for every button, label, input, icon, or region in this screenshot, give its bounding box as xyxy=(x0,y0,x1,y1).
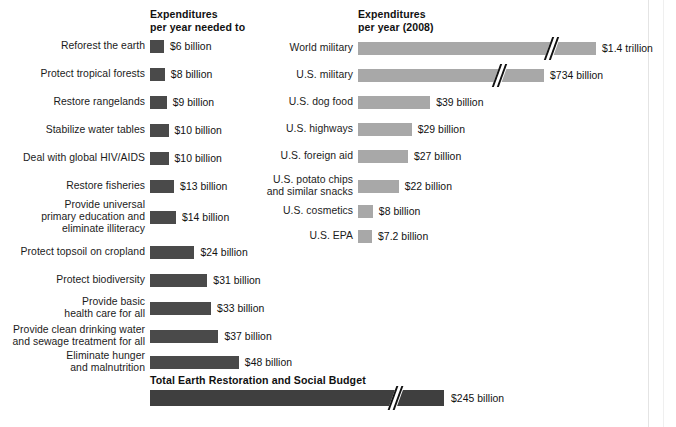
bar-label: Protect biodiversity xyxy=(56,274,145,286)
bar xyxy=(150,246,194,259)
bar-label: U.S. highways xyxy=(286,123,353,135)
bar xyxy=(150,211,176,224)
page-edge-line-outer xyxy=(663,0,664,427)
total-budget-bar xyxy=(150,390,444,406)
bar-label: U.S. foreign aid xyxy=(281,150,353,162)
bar-value-label: $37 billion xyxy=(224,330,271,343)
bar-value-label: $10 billion xyxy=(175,124,222,137)
bar xyxy=(150,68,165,81)
bar-label: Restore fisheries xyxy=(66,180,145,192)
bar xyxy=(150,356,239,369)
bar-value-label: $31 billion xyxy=(213,274,260,287)
bar-value-label: $48 billion xyxy=(245,356,292,369)
total-budget-value-label: $245 billion xyxy=(451,392,504,405)
bar xyxy=(150,330,218,343)
bar xyxy=(150,152,169,165)
bar-label: Provide universal primary education and … xyxy=(41,199,145,234)
bar xyxy=(358,123,412,136)
bar-label: Eliminate hunger and malnutrition xyxy=(66,350,145,373)
bar-label: Provide basic health care for all xyxy=(64,296,145,319)
page-edge-line xyxy=(648,0,649,427)
bar-value-label: $29 billion xyxy=(418,123,465,136)
bar-label: U.S. potato chips and similar snacks xyxy=(267,174,353,197)
bar-value-label: $9 billion xyxy=(173,96,215,109)
bar xyxy=(150,180,174,193)
bar-value-label: $8 billion xyxy=(171,68,213,81)
bar-label: Stabilize water tables xyxy=(46,124,145,136)
bar-label: U.S. cosmetics xyxy=(283,205,353,217)
bar-value-label: $6 billion xyxy=(170,40,212,53)
bar xyxy=(150,274,207,287)
bar-label: Protect topsoil on cropland xyxy=(21,246,145,258)
bar xyxy=(358,205,373,218)
bar-value-label: $734 billion xyxy=(550,69,603,82)
bar-value-label: $8 billion xyxy=(379,205,421,218)
bar-value-label: $33 billion xyxy=(217,302,264,315)
bar-value-label: $13 billion xyxy=(180,180,227,193)
bar-value-label: $27 billion xyxy=(414,150,461,163)
bar xyxy=(358,230,372,243)
bar-label: U.S. dog food xyxy=(289,96,353,108)
bar-label: Reforest the earth xyxy=(61,40,145,52)
bar xyxy=(150,302,211,315)
bar-label: Restore rangelands xyxy=(53,96,145,108)
bar-value-label: $10 billion xyxy=(175,152,222,165)
bar xyxy=(150,96,167,109)
bar-value-label: $14 billion xyxy=(182,211,229,224)
bar-value-label: $24 billion xyxy=(200,246,247,259)
bar xyxy=(358,42,596,55)
chart-canvas: Expenditures per year needed to Expendit… xyxy=(0,0,676,427)
bar-value-label: $39 billion xyxy=(436,96,483,109)
bar-label: U.S. military xyxy=(296,69,353,81)
bar xyxy=(358,180,399,193)
bar-label: Provide clean drinking water and sewage … xyxy=(12,324,145,347)
bar-label: Deal with global HIV/AIDS xyxy=(23,152,145,164)
bar-value-label: $1.4 trillion xyxy=(602,42,653,55)
bar xyxy=(358,150,408,163)
bar xyxy=(358,69,544,82)
bar-label: U.S. EPA xyxy=(309,230,353,242)
bar-label: Protect tropical forests xyxy=(40,68,145,80)
column-heading-needed: Expenditures per year needed to xyxy=(150,8,245,33)
bar xyxy=(150,40,164,53)
total-budget-title: Total Earth Restoration and Social Budge… xyxy=(150,374,366,386)
bar-value-label: $22 billion xyxy=(405,180,452,193)
bar xyxy=(358,96,430,109)
column-heading-actual: Expenditures per year (2008) xyxy=(358,8,434,33)
bar xyxy=(150,124,169,137)
bar-label: World military xyxy=(290,42,353,54)
bar-value-label: $7.2 billion xyxy=(378,230,428,243)
